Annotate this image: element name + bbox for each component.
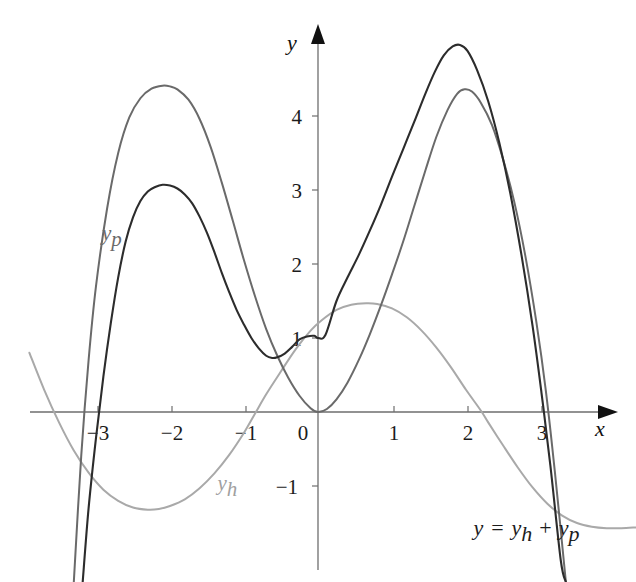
yp-curve-label: yp bbox=[100, 221, 122, 251]
y-axis-arrow-icon bbox=[311, 24, 325, 44]
x-tick-label-1: 1 bbox=[389, 421, 400, 445]
x-axis-label: x bbox=[594, 416, 605, 441]
yp-label-base: y bbox=[100, 221, 112, 245]
yh-label-sub: h bbox=[227, 477, 238, 501]
y-tick-label-3: 3 bbox=[292, 179, 303, 203]
yh-curve-label: yh bbox=[215, 471, 237, 501]
equation-yh-base: y bbox=[510, 515, 522, 540]
curve-yp bbox=[74, 86, 566, 582]
x-tick-label--2: −2 bbox=[161, 421, 183, 445]
equation-yp-base: y bbox=[557, 515, 569, 540]
equation-annotation: y=yh+yp bbox=[471, 515, 579, 546]
plot-canvas: −3 −2 −1 0 1 2 3 −1 1 2 3 4 y x yp yh bbox=[0, 0, 636, 582]
svg-text:yh: yh bbox=[215, 471, 237, 501]
y-tick-marks bbox=[312, 116, 318, 486]
x-tick-label-2: 2 bbox=[463, 421, 474, 445]
curve-sum bbox=[83, 45, 566, 582]
x-tick-label-0: 0 bbox=[298, 421, 309, 445]
y-tick-label-2: 2 bbox=[292, 253, 303, 277]
yh-label-base: y bbox=[215, 471, 227, 495]
function-plot-figure: −3 −2 −1 0 1 2 3 −1 1 2 3 4 y x yp yh bbox=[0, 0, 636, 582]
equation-y: y bbox=[471, 515, 483, 540]
yp-label-sub: p bbox=[109, 227, 122, 251]
y-tick-label--1: −1 bbox=[276, 475, 298, 499]
equation-yp-sub: p bbox=[567, 521, 580, 546]
svg-text:yp: yp bbox=[100, 221, 122, 251]
equation-equals: = bbox=[491, 515, 503, 540]
equation-yh-sub: h bbox=[521, 521, 532, 546]
equation-plus: + bbox=[539, 515, 551, 540]
y-axis-label: y bbox=[285, 30, 297, 55]
y-tick-label-4: 4 bbox=[292, 105, 303, 129]
